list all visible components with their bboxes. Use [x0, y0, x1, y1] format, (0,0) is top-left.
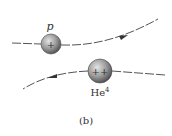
proton-charge: + [47, 39, 55, 50]
helium-label: He4 [90, 86, 110, 98]
figure-caption: (b) [79, 115, 93, 126]
helium-particle: ++ [88, 59, 112, 83]
proton-particle: + [41, 34, 61, 54]
helium-direction-arrow-icon [48, 74, 57, 78]
proton-label: p [46, 20, 53, 33]
helium-label-superscript: 4 [105, 86, 110, 94]
proton-trajectory [12, 19, 158, 45]
helium-charge: ++ [92, 66, 109, 77]
helium-label-base: He [90, 87, 105, 98]
scattering-diagram: + p ++ He4 (b) [0, 0, 172, 136]
